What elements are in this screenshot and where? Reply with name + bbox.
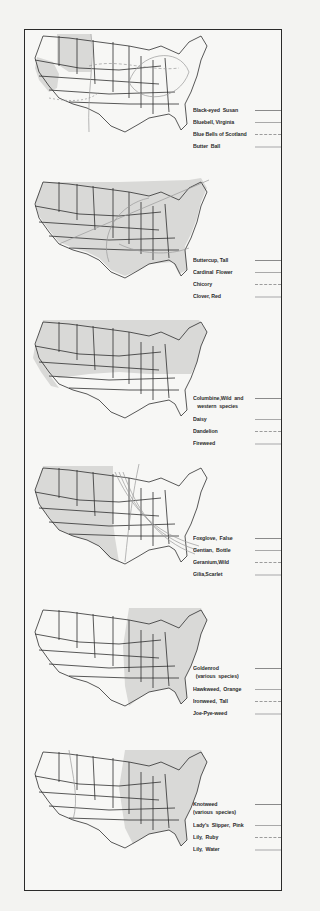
- legend-item: Hawkweed, Orange: [193, 685, 281, 696]
- map-panel-3: Columbine,Wild and western species Daisy…: [25, 318, 281, 461]
- legend-label: Lily, Ruby: [193, 833, 218, 841]
- legend-item: Ironweed, Tall: [193, 697, 281, 708]
- legend-label: Blue Bells of Scotland: [193, 130, 247, 138]
- legend-swatch-solid-light: [255, 419, 281, 420]
- legend-swatch-solid-dark: [255, 260, 281, 261]
- legend-swatch-band: [255, 296, 281, 298]
- legend-item: Foxglove, False: [193, 534, 281, 545]
- legend-swatch-dashed: [255, 431, 281, 432]
- legend-swatch-solid-light: [255, 272, 281, 273]
- legend-swatch-solid-light: [255, 825, 281, 826]
- legend-label: Joe-Pye-weed: [193, 709, 227, 717]
- legend-item: Geranium,Wild: [193, 558, 281, 569]
- legend-label: Buttercup, Tall: [193, 256, 228, 264]
- legend-item: Cardinal Flower: [193, 268, 281, 279]
- legend-label: Daisy: [193, 415, 207, 423]
- legend-label: Ironweed, Tall: [193, 697, 228, 705]
- legend-1: Black-eyed Susan Bluebell, Virginia Blue…: [193, 106, 281, 154]
- legend-swatch-dashed: [255, 701, 281, 702]
- legend-swatch-solid-light: [255, 689, 281, 690]
- legend-label: Cardinal Flower: [193, 268, 233, 276]
- map-panel-6: Knotweed (various species) Lady's Slippe…: [25, 748, 281, 891]
- legend-label: Hawkweed, Orange: [193, 685, 241, 693]
- legend-swatch-band: [255, 574, 281, 576]
- legend-swatch-dashed: [255, 284, 281, 285]
- legend-label: Gentian, Bottle: [193, 546, 231, 554]
- map-panel-4: Foxglove, False Gentian, Bottle Geranium…: [25, 462, 281, 605]
- legend-label: Lily, Water: [193, 845, 219, 853]
- legend-swatch-band: [255, 443, 281, 445]
- legend-label: Foxglove, False: [193, 534, 233, 542]
- map-frame: Black-eyed Susan Bluebell, Virginia Blue…: [24, 29, 282, 891]
- legend-swatch-dashed: [255, 837, 281, 838]
- map-panel-5: Goldenrod (various species) Hawkweed, Or…: [25, 606, 281, 749]
- legend-swatch-band: [255, 713, 281, 715]
- legend-swatch-dashed: [255, 134, 281, 135]
- legend-swatch-solid-dark: [255, 804, 281, 805]
- legend-item: Dandelion: [193, 427, 281, 438]
- legend-item: Lily, Water: [193, 845, 281, 856]
- legend-3: Columbine,Wild and western species Daisy…: [193, 394, 281, 451]
- legend-swatch-solid-dark: [255, 538, 281, 539]
- legend-swatch-solid-light: [255, 550, 281, 551]
- legend-label: Clover, Red: [193, 292, 221, 300]
- map-panel-1: Black-eyed Susan Bluebell, Virginia Blue…: [25, 32, 281, 175]
- legend-2: Buttercup, Tall Cardinal Flower Chicory …: [193, 256, 281, 304]
- legend-label: Chicory: [193, 280, 212, 288]
- legend-item: Lily, Ruby: [193, 833, 281, 844]
- map-panel-2: Buttercup, Tall Cardinal Flower Chicory …: [25, 174, 281, 317]
- legend-swatch-band: [255, 146, 281, 148]
- legend-label: Geranium,Wild: [193, 558, 229, 566]
- legend-item: Daisy: [193, 415, 281, 426]
- legend-label: Goldenrod (various species): [193, 664, 239, 680]
- legend-label: Fireweed: [193, 439, 215, 447]
- legend-label: Knotweed (various species): [193, 800, 236, 816]
- legend-swatch-solid-light: [255, 122, 281, 123]
- legend-item: Columbine,Wild and western species: [193, 394, 281, 414]
- legend-swatch-solid-dark: [255, 398, 281, 399]
- legend-swatch-solid-dark: [255, 110, 281, 111]
- legend-label: Black-eyed Susan: [193, 106, 238, 114]
- legend-item: Clover, Red: [193, 292, 281, 303]
- legend-item: Lady's Slipper, Pink: [193, 821, 281, 832]
- legend-label: Butter Ball: [193, 142, 220, 150]
- legend-item: Joe-Pye-weed: [193, 709, 281, 720]
- legend-item: Gentian, Bottle: [193, 546, 281, 557]
- legend-item: Goldenrod (various species): [193, 664, 281, 684]
- legend-4: Foxglove, False Gentian, Bottle Geranium…: [193, 534, 281, 582]
- legend-label: Columbine,Wild and western species: [193, 394, 243, 410]
- legend-label: Lady's Slipper, Pink: [193, 821, 244, 829]
- legend-item: Blue Bells of Scotland: [193, 130, 281, 141]
- legend-item: Fireweed: [193, 439, 281, 450]
- legend-6: Knotweed (various species) Lady's Slippe…: [193, 800, 281, 857]
- legend-swatch-band: [255, 849, 281, 851]
- legend-item: Black-eyed Susan: [193, 106, 281, 117]
- legend-item: Buttercup, Tall: [193, 256, 281, 267]
- legend-item: Knotweed (various species): [193, 800, 281, 820]
- legend-item: Gilia,Scarlet: [193, 570, 281, 581]
- legend-item: Chicory: [193, 280, 281, 291]
- legend-swatch-dashed: [255, 562, 281, 563]
- legend-item: Bluebell, Virginia: [193, 118, 281, 129]
- legend-item: Butter Ball: [193, 142, 281, 153]
- legend-label: Dandelion: [193, 427, 218, 435]
- legend-label: Bluebell, Virginia: [193, 118, 234, 126]
- legend-5: Goldenrod (various species) Hawkweed, Or…: [193, 664, 281, 721]
- legend-swatch-solid-dark: [255, 668, 281, 669]
- legend-label: Gilia,Scarlet: [193, 570, 222, 578]
